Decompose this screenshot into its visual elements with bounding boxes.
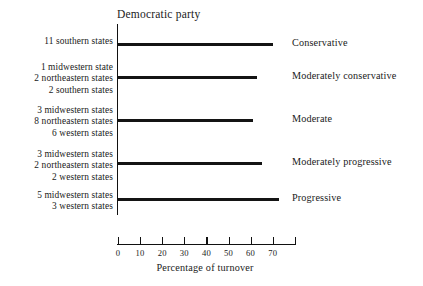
x-axis-tick-label: 50 (219, 248, 239, 258)
bar-group-label-line: 3 midwestern states (0, 105, 113, 116)
bar (118, 119, 253, 122)
bar-group-label-line: 1 midwestern state (0, 62, 113, 73)
x-axis-tick (251, 237, 252, 245)
bar-group-label-line: 8 northeastern states (0, 116, 113, 127)
bar-group-label-line: 3 western states (0, 201, 113, 212)
bar-group-label: 5 midwestern states3 western states (0, 190, 113, 213)
chart-root: Democratic party 11 southern states1 mid… (0, 0, 423, 286)
category-label: Moderately progressive (292, 156, 392, 167)
bar-group-label-line: 6 western states (0, 128, 113, 139)
bar (118, 43, 273, 46)
x-axis-tick (118, 237, 119, 245)
bar-group-label-line: 2 northeastern states (0, 73, 113, 84)
bar-group-label-line: 11 southern states (0, 36, 113, 47)
x-axis-tick-label: 70 (263, 248, 283, 258)
x-axis-tick (162, 237, 163, 245)
bar-group-label: 3 midwestern states8 northeastern states… (0, 105, 113, 139)
bar-group-label-line: 2 southern states (0, 85, 113, 96)
category-label: Conservative (292, 37, 348, 48)
x-axis-tick-label: 40 (196, 248, 216, 258)
category-label: Moderate (292, 113, 332, 124)
x-axis-tick (229, 237, 230, 245)
x-axis-tick (184, 237, 185, 245)
x-axis-tick (206, 237, 207, 245)
x-axis-tick-label: 20 (152, 248, 172, 258)
x-axis-tick-label: 10 (130, 248, 150, 258)
x-axis-title: Percentage of turnover (117, 262, 293, 273)
bar (118, 162, 262, 165)
category-label: Moderately conservative (292, 70, 396, 81)
x-axis-tick (295, 237, 296, 245)
bar-group-label-line: 2 western states (0, 172, 113, 183)
bar (118, 76, 257, 79)
bar-group-label-line: 5 midwestern states (0, 190, 113, 201)
x-axis-tick-label: 30 (174, 248, 194, 258)
category-label: Progressive (292, 192, 341, 203)
bar-group-label: 11 southern states (0, 36, 113, 47)
bar (118, 198, 279, 201)
bar-group-label: 1 midwestern state2 northeastern states2… (0, 62, 113, 96)
bar-group-label: 3 midwestern states2 northeastern states… (0, 149, 113, 183)
x-axis-tick (140, 237, 141, 245)
x-axis-tick-label: 0 (108, 248, 128, 258)
bar-group-label-line: 3 midwestern states (0, 149, 113, 160)
x-axis-tick (273, 237, 274, 245)
x-axis-tick-label: 60 (241, 248, 261, 258)
bar-group-label-line: 2 northeastern states (0, 160, 113, 171)
